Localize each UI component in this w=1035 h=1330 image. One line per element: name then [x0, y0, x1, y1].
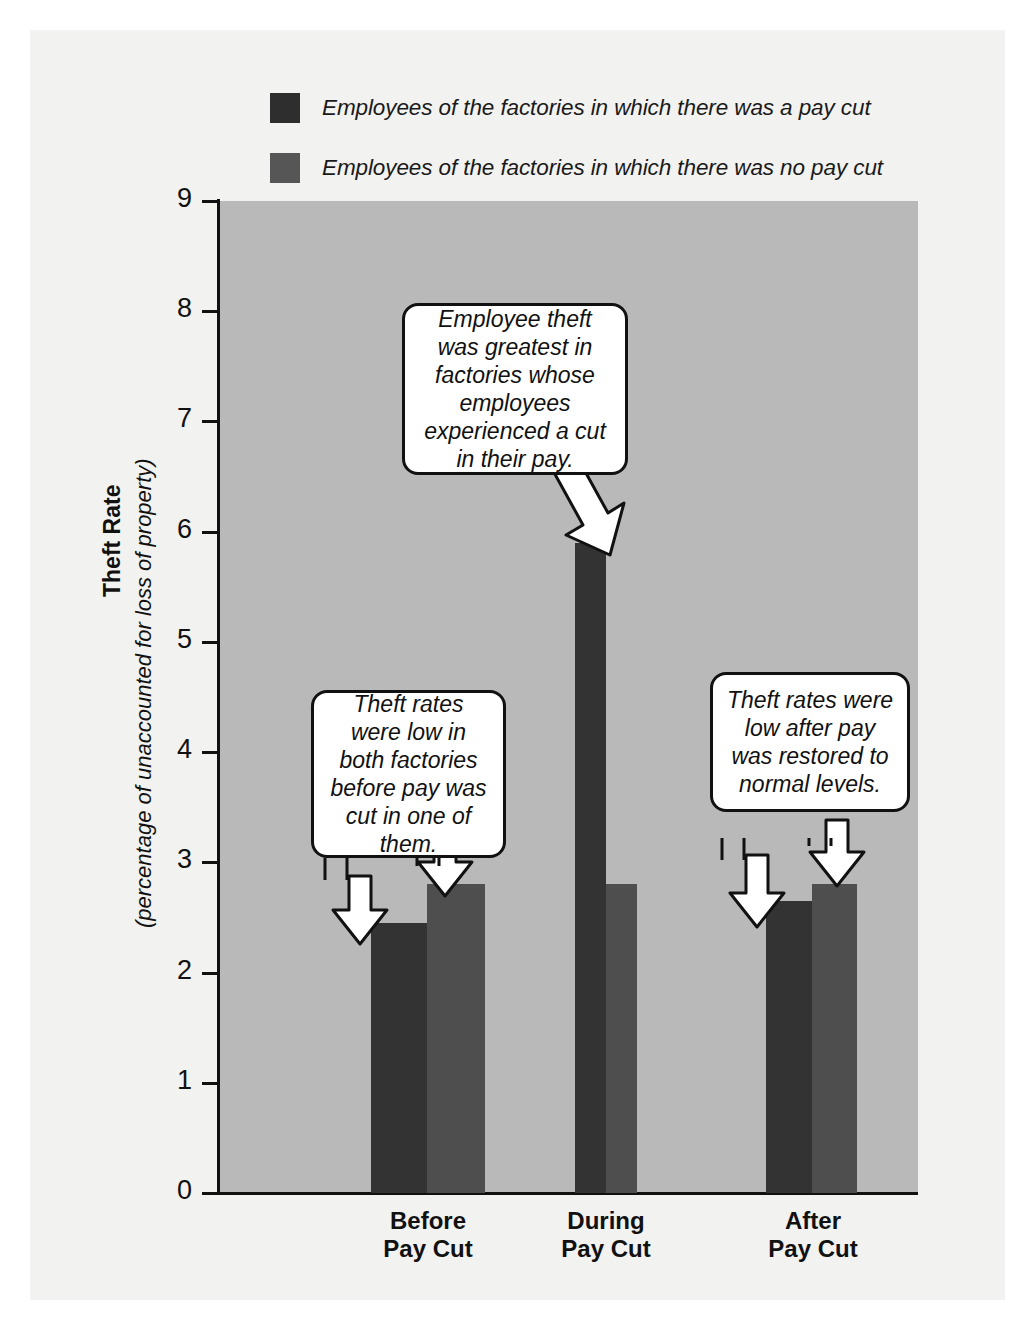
callout-after-pay-cut: Theft rates were low after pay was resto… — [710, 672, 910, 812]
y-axis-line — [217, 199, 220, 1195]
x-label-after: After Pay Cut — [703, 1207, 923, 1264]
legend-item-no-pay-cut: Employees of the factories in which ther… — [270, 138, 970, 198]
callout-before-pay-cut: Theft rates were low in both factories b… — [311, 690, 506, 858]
chart-legend: Employees of the factories in which ther… — [270, 78, 970, 198]
bar-before-no-pay-cut — [427, 884, 485, 1193]
callout-connector-after — [715, 838, 845, 878]
chart-page: Employees of the factories in which ther… — [0, 0, 1035, 1330]
bar-during-no-pay-cut — [606, 884, 637, 1193]
y-axis-title: Theft Rate — [99, 485, 126, 597]
legend-swatch-no-pay-cut — [270, 153, 300, 183]
callout-during-pay-cut: Employee theft was greatest in factories… — [402, 303, 628, 475]
x-label-during: During Pay Cut — [496, 1207, 716, 1264]
legend-swatch-pay-cut — [270, 93, 300, 123]
bar-after-pay-cut — [766, 901, 812, 1193]
callout-before-text: Theft rates were low in both factories b… — [326, 690, 491, 858]
legend-item-pay-cut: Employees of the factories in which ther… — [270, 78, 970, 138]
legend-label-no-pay-cut: Employees of the factories in which ther… — [322, 155, 883, 181]
bar-after-no-pay-cut — [812, 884, 857, 1193]
bar-before-pay-cut — [371, 923, 427, 1193]
x-label-after-line1: After — [703, 1207, 923, 1235]
callout-connector-before — [318, 856, 448, 896]
bar-during-pay-cut — [575, 543, 606, 1193]
y-axis-subtitle: (percentage of unaccounted for loss of p… — [131, 458, 157, 928]
x-label-during-line2: Pay Cut — [496, 1235, 716, 1263]
callout-after-text: Theft rates were low after pay was resto… — [725, 686, 895, 798]
x-label-after-line2: Pay Cut — [703, 1235, 923, 1263]
x-label-during-line1: During — [496, 1207, 716, 1235]
legend-label-pay-cut: Employees of the factories in which ther… — [322, 95, 871, 121]
callout-during-text: Employee theft was greatest in factories… — [417, 305, 613, 473]
